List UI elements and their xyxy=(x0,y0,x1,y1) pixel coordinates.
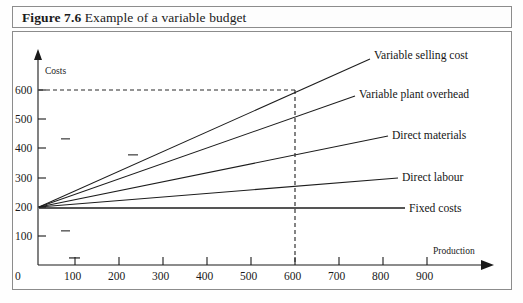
scan-artifact xyxy=(128,154,138,156)
x-tick-label-600: 600 xyxy=(284,270,302,282)
x-axis-arrow-icon xyxy=(481,260,494,270)
y-tick-label-600: 600 xyxy=(15,84,33,96)
series-line-variable-selling-cost xyxy=(39,59,370,207)
y-tick-label-400: 400 xyxy=(15,142,33,154)
y-tick-label-100: 100 xyxy=(15,230,33,242)
series-label-direct-labour: Direct labour xyxy=(402,171,464,184)
y-axis-title: Costs xyxy=(45,66,66,76)
x-axis-title: Production xyxy=(433,246,475,256)
series-line-direct-materials xyxy=(39,136,388,207)
series-label-direct-materials: Direct materials xyxy=(392,129,467,142)
x-tick-label-900: 900 xyxy=(416,270,434,282)
y-tick-label-200: 200 xyxy=(15,201,33,213)
figure-number: Figure 7.6 xyxy=(22,10,81,25)
series-line-variable-plant-overhead xyxy=(39,96,355,207)
figure-caption: Figure 7.6 Example of a variable budget xyxy=(22,10,246,26)
x-tick-label-700: 700 xyxy=(328,270,346,282)
x-tick-label-400: 400 xyxy=(196,270,214,282)
figure-caption-text: Example of a variable budget xyxy=(85,10,247,25)
figure-page: Figure 7.6 Example of a variable budget … xyxy=(0,0,523,303)
scan-artifact xyxy=(61,138,70,140)
y-tick-label-0: 0 xyxy=(15,270,21,282)
x-tick-label-800: 800 xyxy=(372,270,390,282)
x-tick-label-100: 100 xyxy=(64,270,82,282)
chart-container: Costs 600 500 400 300 200 100 0 Producti… xyxy=(12,31,512,290)
series-label-variable-selling-cost: Variable selling cost xyxy=(374,49,469,62)
y-tick-label-500: 500 xyxy=(15,113,33,125)
x-tick-label-300: 300 xyxy=(152,270,170,282)
figure-title-box: Figure 7.6 Example of a variable budget xyxy=(12,6,512,28)
series-label-variable-plant-overhead: Variable plant overhead xyxy=(359,88,469,101)
x-tick-label-500: 500 xyxy=(240,270,258,282)
x-tick-label-200: 200 xyxy=(108,270,126,282)
variable-budget-line-chart: Costs 600 500 400 300 200 100 0 Producti… xyxy=(13,32,511,289)
y-tick-label-300: 300 xyxy=(15,172,33,184)
scan-artifact xyxy=(61,230,70,232)
y-axis-arrow-icon xyxy=(34,49,42,60)
series-label-fixed-costs: Fixed costs xyxy=(409,202,462,215)
